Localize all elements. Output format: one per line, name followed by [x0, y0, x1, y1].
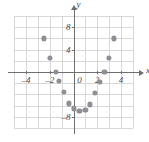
data-point	[53, 69, 58, 74]
x-axis-label: x	[146, 66, 149, 75]
data-point	[111, 36, 116, 41]
y-axis-tick	[72, 27, 75, 28]
y-axis-tick	[72, 117, 75, 118]
y-axis-label: y	[77, 0, 81, 9]
data-point	[102, 69, 107, 74]
x-tick-label: –2	[45, 76, 54, 85]
x-axis-tick	[97, 71, 98, 74]
y-tick-label: 4	[61, 45, 71, 54]
y-tick-label: 8	[61, 23, 71, 32]
x-axis-tick	[26, 71, 27, 74]
x-tick-label: 4	[119, 76, 124, 85]
x-tick-label: 0	[77, 76, 82, 85]
y-axis-tick	[72, 50, 75, 51]
data-point	[83, 107, 88, 112]
x-tick-label: –4	[21, 76, 30, 85]
data-point	[41, 36, 46, 41]
x-axis-tick	[121, 71, 122, 74]
y-tick-label: –8	[61, 112, 71, 121]
x-axis-tick	[50, 71, 51, 74]
x-axis-arrow-icon	[139, 70, 144, 76]
plot-area: –4–202484–8	[14, 16, 133, 128]
scatter-plot-figure: –4–202484–8 x y	[0, 0, 149, 142]
data-point	[77, 109, 82, 114]
data-point	[71, 106, 76, 111]
